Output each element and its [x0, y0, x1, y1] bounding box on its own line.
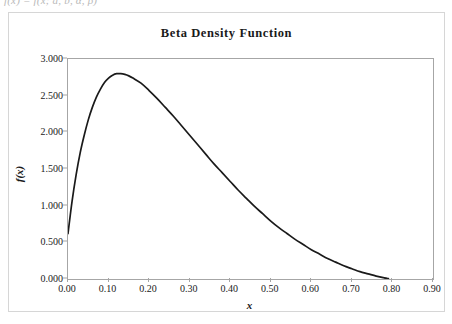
- chart-frame: Beta Density Function f(x) 0.0000.5001.0…: [8, 12, 445, 312]
- x-tick-label: 0.50: [250, 283, 290, 294]
- x-tick-mark: [432, 278, 433, 282]
- x-tick-mark: [270, 278, 271, 282]
- x-tick-mark: [148, 278, 149, 282]
- x-axis-tick-labels: 0.000.100.200.300.400.500.600.700.800.90: [67, 283, 432, 299]
- x-tick-mark: [108, 278, 109, 282]
- x-tick-label: 0.30: [169, 283, 209, 294]
- beta-density-curve: [68, 59, 433, 279]
- x-tick-label: 0.10: [88, 283, 128, 294]
- x-tick-mark: [189, 278, 190, 282]
- x-tick-label: 0.70: [331, 283, 371, 294]
- x-tick-label: 0.20: [128, 283, 168, 294]
- chart-title: Beta Density Function: [9, 26, 444, 41]
- x-tick-mark: [310, 278, 311, 282]
- x-tick-mark: [229, 278, 230, 282]
- x-tick-mark: [67, 278, 68, 282]
- x-tick-label: 0.00: [47, 283, 87, 294]
- x-tick-label: 0.80: [371, 283, 411, 294]
- x-tick-label: 0.90: [412, 283, 452, 294]
- x-tick-label: 0.60: [290, 283, 330, 294]
- x-tick-label: 0.40: [209, 283, 249, 294]
- x-axis-title: x: [67, 299, 432, 311]
- x-tick-mark: [391, 278, 392, 282]
- cutoff-formula-text: f(x) = f(x; a, b, α, β): [4, 0, 97, 6]
- x-tick-mark: [351, 278, 352, 282]
- plot-area: [67, 58, 434, 280]
- y-axis-tick-marks: [9, 58, 69, 278]
